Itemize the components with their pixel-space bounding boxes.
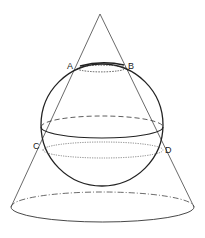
- circle-cd-front: [43, 150, 163, 158]
- cone-sphere-diagram: A B C D: [0, 0, 205, 238]
- circle-ab-front: [77, 68, 126, 72]
- cone-right-edge: [100, 14, 194, 207]
- label-c: C: [33, 141, 40, 151]
- label-a: A: [67, 61, 73, 71]
- cone-left-edge: [11, 14, 100, 207]
- equator-front: [41, 127, 163, 138]
- base-ellipse-back: [11, 192, 194, 207]
- label-b: B: [128, 61, 134, 71]
- circle-cd-back: [43, 142, 163, 150]
- equator-back: [41, 116, 163, 127]
- label-d: D: [165, 145, 172, 155]
- base-ellipse-front: [11, 207, 194, 222]
- sphere-outline: [41, 64, 163, 186]
